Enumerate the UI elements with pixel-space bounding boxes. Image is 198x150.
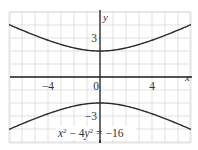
y-axis-label: y — [102, 11, 108, 23]
x-axis-label: x — [184, 71, 190, 83]
y-tick-label: −3 — [85, 110, 97, 122]
y-tick-label: 3 — [91, 32, 97, 44]
hyperbola-chart: x y −404 3−3 x2 − 4y2 = −16 — [0, 0, 198, 150]
x-tick-label: 4 — [149, 80, 155, 92]
x-tick-label: −4 — [42, 80, 54, 92]
x-tick-label: 0 — [93, 80, 99, 92]
